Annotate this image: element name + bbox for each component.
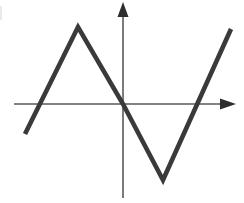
scan-smudge-artifact bbox=[0, 6, 2, 20]
graph-canvas bbox=[0, 0, 244, 203]
figure-container bbox=[0, 0, 244, 203]
